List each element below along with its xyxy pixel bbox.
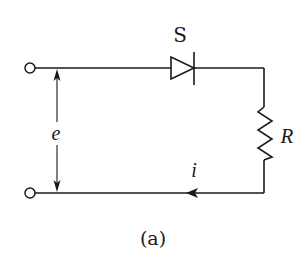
bottom-left-terminal xyxy=(25,188,35,198)
diode-icon xyxy=(171,52,194,85)
voltage-label: e xyxy=(52,122,61,144)
current-label: i xyxy=(191,159,197,181)
diode-label: S xyxy=(173,23,187,47)
resistor-label: R xyxy=(280,124,294,148)
top-left-terminal xyxy=(25,63,35,73)
circuit-diagram: S R e i (a) xyxy=(0,0,308,263)
resistor-icon xyxy=(258,107,272,160)
figure-caption: (a) xyxy=(140,227,166,249)
